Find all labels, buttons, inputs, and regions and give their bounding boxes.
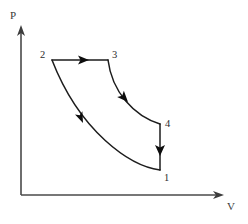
state-labels-group: 2 3 4 1 bbox=[40, 49, 171, 183]
cycle-paths-group bbox=[52, 60, 160, 170]
state-label-2: 2 bbox=[40, 49, 45, 60]
state-label-1: 1 bbox=[164, 172, 169, 183]
axis-group bbox=[17, 25, 224, 199]
flow-arrowheads-group bbox=[75, 55, 165, 156]
process-path-3-4 bbox=[108, 60, 160, 124]
process-path-1-2 bbox=[52, 60, 160, 170]
state-label-4: 4 bbox=[165, 118, 171, 129]
x-axis-label: V bbox=[227, 200, 235, 212]
pv-diagram-canvas: P V 2 3 4 1 bbox=[0, 0, 248, 224]
state-label-3: 3 bbox=[112, 49, 117, 60]
y-axis-label: P bbox=[10, 9, 16, 21]
pv-diagram-figure: P V 2 3 4 1 bbox=[0, 0, 248, 224]
